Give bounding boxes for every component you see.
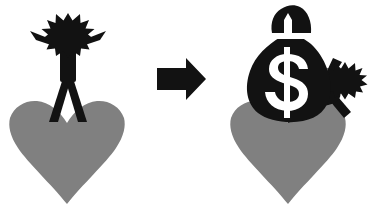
money-bag-neck-band <box>270 33 312 39</box>
clipart-canvas: Happy person on heart transforms into mo… <box>0 0 383 215</box>
scene-svg <box>0 0 383 215</box>
dollar-sign-bar <box>284 47 290 118</box>
